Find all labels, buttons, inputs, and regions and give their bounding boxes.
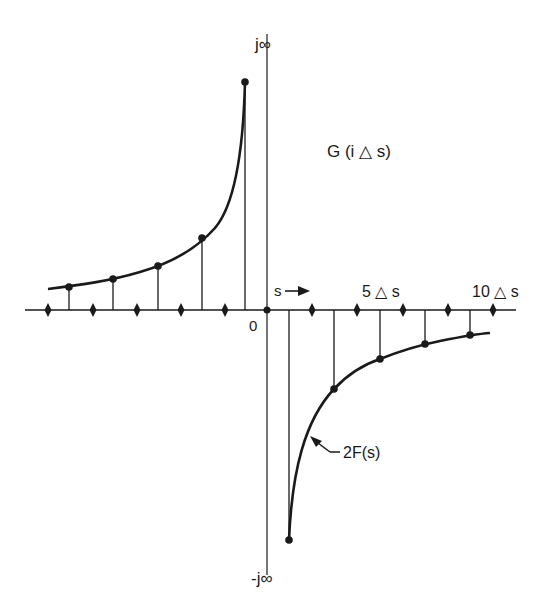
tick-diamond <box>354 303 361 317</box>
sample-dot <box>285 536 293 544</box>
sample-dot <box>154 262 162 270</box>
s-arrow-label: s <box>274 282 282 299</box>
top-axis-label: j∞ <box>254 35 271 54</box>
tick-diamond <box>222 303 229 317</box>
left-sample-stems <box>69 82 245 310</box>
sample-dot <box>466 331 474 339</box>
sample-dot <box>65 283 73 291</box>
tick-5-label: 5 △ s <box>362 283 400 300</box>
s-arrow-icon <box>298 286 310 296</box>
right-sample-stems <box>289 310 470 540</box>
curve-label: 2F(s) <box>343 444 380 461</box>
sample-dot <box>376 355 384 363</box>
tick-diamond <box>45 303 52 317</box>
upper-left-curve <box>48 82 245 289</box>
tick-diamond <box>178 303 185 317</box>
sample-dot <box>241 78 249 86</box>
sample-dot <box>330 385 338 393</box>
sampled-function-diagram: j∞ -j∞ G (i △ s) 0 s 5 △ s 10 △ s 2F(s) <box>0 0 541 610</box>
lower-right-curve <box>289 333 490 540</box>
bottom-axis-label: -j∞ <box>251 569 273 588</box>
diagram-title: G (i △ s) <box>327 142 391 161</box>
origin-label: 0 <box>249 317 257 334</box>
curve-pointer-line <box>318 443 330 452</box>
tick-diamond <box>134 303 141 317</box>
sample-dot <box>421 340 429 348</box>
tick-diamond <box>309 303 316 317</box>
sample-dot <box>109 275 117 283</box>
tick-diamond <box>400 303 407 317</box>
tick-diamond <box>90 303 97 317</box>
origin-dot <box>264 307 271 314</box>
tick-diamond <box>445 303 452 317</box>
tick-10-label: 10 △ s <box>472 283 519 300</box>
sample-dot <box>198 234 206 242</box>
tick-diamond <box>490 303 497 317</box>
